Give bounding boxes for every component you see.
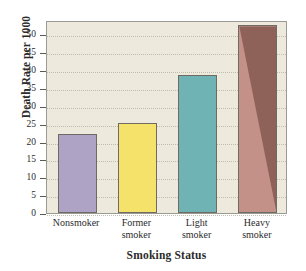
category-label-line: Former bbox=[122, 217, 151, 228]
y-tick-label: 30 bbox=[0, 102, 36, 112]
bar bbox=[58, 134, 97, 213]
category-label-line: smoker bbox=[227, 229, 287, 241]
category-label-line: Heavy bbox=[244, 217, 270, 228]
y-tick-label: 5 bbox=[0, 191, 36, 201]
y-tick-label: 50 bbox=[0, 30, 36, 40]
category-label-line: smoker bbox=[106, 229, 166, 241]
category-label-line: Nonsmoker bbox=[53, 217, 100, 228]
bar-chart-figure: Death Rate per 1000 05101520253035404550… bbox=[0, 0, 306, 271]
category-label-line: smoker bbox=[167, 229, 227, 241]
bar bbox=[238, 25, 277, 213]
plot-inner bbox=[47, 22, 286, 213]
category-label: Heavysmoker bbox=[227, 217, 287, 240]
category-label-line: Light bbox=[186, 217, 208, 228]
y-tick-label: 10 bbox=[0, 173, 36, 183]
y-tick-label: 40 bbox=[0, 66, 36, 76]
y-tick-label: 25 bbox=[0, 120, 36, 130]
y-tick-label: 45 bbox=[0, 48, 36, 58]
bar-shading-wedge bbox=[239, 26, 276, 212]
y-tick-label: 35 bbox=[0, 84, 36, 94]
bar bbox=[118, 123, 157, 213]
bar bbox=[178, 75, 217, 213]
plot-area bbox=[46, 21, 287, 214]
y-axis-title: Death Rate per 1000 bbox=[17, 0, 35, 157]
y-tick-mark bbox=[40, 214, 46, 215]
y-tick-label: 20 bbox=[0, 138, 36, 148]
y-tick-label: 0 bbox=[0, 209, 36, 219]
x-axis-title: Smoking Status bbox=[46, 249, 287, 261]
category-label: Formersmoker bbox=[106, 217, 166, 240]
y-tick-label: 15 bbox=[0, 155, 36, 165]
category-label: Lightsmoker bbox=[167, 217, 227, 240]
gridline bbox=[47, 215, 286, 216]
category-label: Nonsmoker bbox=[46, 217, 106, 229]
